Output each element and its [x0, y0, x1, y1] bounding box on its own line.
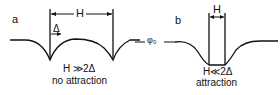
- condition-a: H ≫2Δ: [63, 63, 95, 74]
- diagram-canvas: [0, 0, 280, 95]
- potential-curve-a: [10, 39, 140, 60]
- condition-b: H≪2Δ: [203, 66, 232, 77]
- result-b: attraction: [196, 77, 237, 88]
- potential-curve-b: [175, 41, 278, 65]
- arrowhead-b-left-icon: [210, 15, 214, 19]
- arrowhead-left-icon: [51, 12, 56, 16]
- baseline-label: φ₀: [147, 35, 157, 45]
- spacing-label-b: H: [213, 3, 221, 15]
- arrowhead-right-icon: [107, 12, 112, 16]
- spacing-label-a: H: [76, 7, 84, 19]
- result-a: no attraction: [52, 75, 107, 86]
- width-label-a: Δ: [53, 23, 60, 34]
- panel-label-b: b: [175, 14, 181, 26]
- panel-label-a: a: [12, 13, 18, 25]
- arrowhead-b-right-icon: [220, 15, 224, 19]
